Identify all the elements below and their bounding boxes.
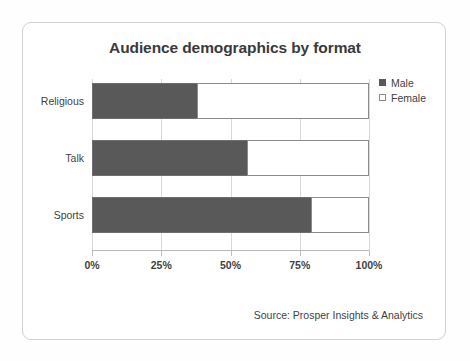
chart-screenshot: Audience demographics by format Male Fem… xyxy=(0,0,470,361)
category-label: Sports xyxy=(4,197,84,233)
plot-area: ReligiousTalkSports 0%25%50%75%100% xyxy=(92,79,369,251)
x-tick-label: 50% xyxy=(220,259,241,271)
legend-item-female[interactable]: Female xyxy=(379,90,445,105)
bar-segment-female[interactable] xyxy=(197,83,369,119)
x-tick-label: 100% xyxy=(356,259,383,271)
bar-rows: ReligiousTalkSports xyxy=(92,79,369,251)
tick-mark xyxy=(231,251,232,256)
x-tick-label: 0% xyxy=(84,259,99,271)
bar-row: Religious xyxy=(92,83,369,119)
tick-mark xyxy=(300,251,301,256)
bar-segment-male[interactable] xyxy=(92,83,197,119)
bar-segment-female[interactable] xyxy=(311,197,369,233)
legend-label-male: Male xyxy=(391,77,414,89)
source-note: Source: Prosper Insights & Analytics xyxy=(254,309,423,321)
female-swatch-icon xyxy=(379,94,386,101)
tick-mark xyxy=(92,251,93,256)
chart-legend: Male Female xyxy=(379,75,445,105)
male-swatch-icon xyxy=(379,79,386,86)
chart-title: Audience demographics by format xyxy=(23,39,447,57)
category-label: Talk xyxy=(4,140,84,176)
chart-card: Audience demographics by format Male Fem… xyxy=(22,22,446,340)
bar-segment-male[interactable] xyxy=(92,197,311,233)
x-tick-label: 75% xyxy=(289,259,310,271)
legend-item-male[interactable]: Male xyxy=(379,75,445,90)
bar-segment-female[interactable] xyxy=(247,140,369,176)
legend-label-female: Female xyxy=(391,92,426,104)
bar-row: Sports xyxy=(92,197,369,233)
category-label: Religious xyxy=(4,83,84,119)
x-tick-label: 25% xyxy=(151,259,172,271)
tick-mark xyxy=(369,251,370,256)
tick-mark xyxy=(161,251,162,256)
bar-segment-male[interactable] xyxy=(92,140,247,176)
gridline xyxy=(369,79,370,251)
bar-row: Talk xyxy=(92,140,369,176)
